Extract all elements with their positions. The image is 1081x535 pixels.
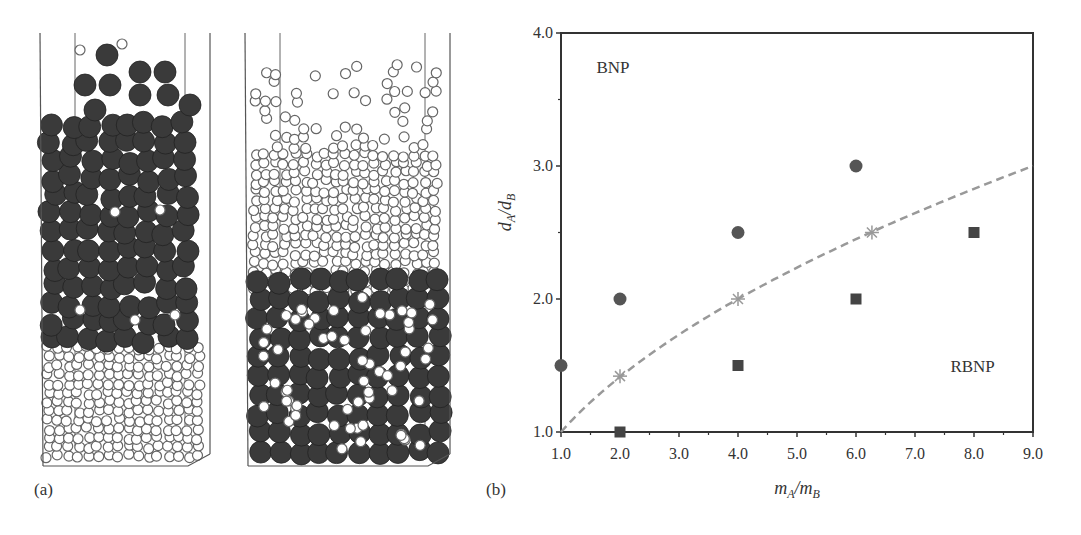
rbnp-square-marker [733,360,744,371]
small-white-particle [262,324,272,334]
small-white-particle [350,232,360,242]
large-dark-particle [80,204,102,226]
small-white-particle [133,405,143,415]
small-white-particle [310,71,320,81]
small-white-particle [339,161,349,171]
large-dark-particle [117,206,139,228]
bnp-circle-marker [555,359,568,372]
small-white-particle [409,238,419,248]
small-white-particle [182,426,192,436]
small-white-particle [72,452,82,462]
small-white-particle [250,223,260,233]
small-white-particle [251,89,261,99]
small-white-particle [400,103,410,113]
small-white-particle [289,224,299,234]
small-white-particle [428,107,438,117]
small-white-particle [389,233,399,243]
small-white-particle [343,404,353,414]
small-white-particle [349,150,359,160]
small-white-particle [151,451,161,461]
small-white-particle [379,213,389,223]
small-white-particle [430,224,440,234]
large-dark-particle [99,240,121,262]
small-white-particle [361,96,371,106]
panel-a-label: (a) [34,480,53,500]
small-white-particle [174,451,184,461]
small-white-particle [319,188,329,198]
small-white-particle [172,415,182,425]
small-white-particle [299,124,309,134]
large-dark-particle [99,74,121,96]
container-rbnp [245,33,452,466]
large-dark-particle [136,255,158,277]
small-white-particle [428,241,438,251]
small-white-particle [281,311,291,321]
small-white-particle [388,197,398,207]
small-white-particle [91,417,101,427]
small-white-particle [289,197,299,207]
small-white-particle [259,338,269,348]
small-white-particle [369,194,379,204]
rbnp-square-marker [851,294,862,305]
small-white-particle [349,88,359,98]
x-tick-label: 6.0 [846,445,866,462]
small-white-particle [380,186,390,196]
small-white-particle [400,347,410,357]
large-dark-particle [308,348,330,370]
small-white-particle [297,304,307,314]
small-white-particle [259,259,269,269]
small-white-particle [259,351,269,361]
small-white-particle [345,424,355,434]
small-white-particle [291,88,301,98]
large-dark-particle [268,272,290,294]
small-white-particle [182,398,192,408]
small-white-particle [419,212,429,222]
large-dark-particle [40,314,62,336]
large-dark-particle [426,269,448,291]
small-white-particle [272,142,282,152]
small-white-particle [133,362,143,372]
small-white-particle [45,426,55,436]
small-white-particle [301,143,311,153]
small-white-particle [61,416,71,426]
small-white-particle [271,130,281,140]
small-white-particle [341,69,351,79]
region-label-bnp: BNP [596,58,629,77]
small-white-particle [411,224,421,234]
small-white-particle [420,88,430,98]
small-white-particle [368,151,378,161]
y-axis-label: dA/dB [495,193,518,231]
small-white-particle [328,89,338,99]
x-tick-label: 5.0 [787,445,807,462]
small-white-particle [114,423,124,433]
region-label-rbnp: RBNP [950,357,994,376]
small-white-particle [114,397,124,407]
small-white-particle [429,258,439,268]
large-dark-particle [40,220,62,242]
phase-diagram-chart: 1.02.03.04.05.06.07.08.09.01.02.03.04.0m… [470,0,1081,535]
large-dark-particle [174,131,196,153]
small-white-particle [269,169,279,179]
small-white-particle [192,435,202,445]
small-white-particle [391,167,401,177]
small-white-particle [389,186,399,196]
panel-b-label: (b) [486,480,506,500]
small-white-particle [249,206,259,216]
small-white-particle [390,215,400,225]
small-white-particle [357,356,367,366]
small-white-particle [404,317,414,327]
small-white-particle [432,178,442,188]
large-dark-particle [247,364,269,386]
small-white-particle [291,314,301,324]
small-white-particle [279,224,289,234]
small-white-particle [282,385,292,395]
small-white-particle [251,170,261,180]
x-tick-label: 9.0 [1023,445,1043,462]
small-white-particle [271,70,281,80]
small-white-particle [418,140,428,150]
small-white-particle [390,107,400,117]
large-dark-particle [175,278,197,300]
small-white-particle [151,426,161,436]
small-white-particle [52,415,62,425]
small-white-particle [402,86,412,96]
